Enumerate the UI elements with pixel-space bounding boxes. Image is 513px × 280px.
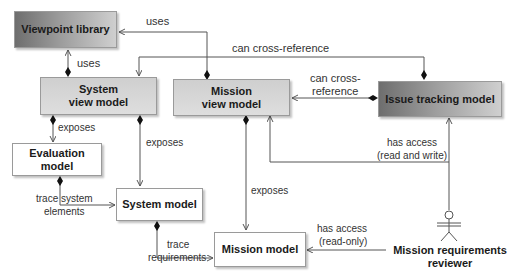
actor-label-line2: reviewer	[388, 257, 512, 270]
edge-label-can-cross-1: can cross-	[310, 72, 361, 84]
edge-label-can-cross-2: reference	[312, 85, 358, 97]
node-system-view-model: System view model	[40, 77, 157, 115]
edge-label-trace-system-1: trace system	[36, 193, 93, 205]
node-label: Evaluation model	[13, 147, 101, 173]
node-label-line1: System	[79, 83, 118, 96]
node-label-line2: view model	[202, 98, 261, 111]
diamond-icon	[368, 95, 378, 101]
edge-label-trace-system-2: elements	[44, 206, 85, 218]
edge-issue-crossref-system-view	[139, 57, 424, 76]
node-label: Issue tracking model	[385, 93, 494, 106]
edge-label-uses-left: uses	[77, 57, 100, 69]
node-mission-model: Mission model	[214, 232, 306, 267]
edge-label-access-rw-1: has access	[387, 137, 437, 149]
edge-label-exposes-sys: exposes	[146, 137, 183, 149]
node-label: System model	[122, 198, 197, 211]
node-issue-tracking-model: Issue tracking model	[378, 81, 502, 117]
actor-label: Mission requirements reviewer	[388, 244, 512, 270]
edge-label-exposes-eval: exposes	[58, 122, 95, 134]
node-system-model: System model	[116, 188, 203, 221]
edge-label-uses-top: uses	[146, 15, 169, 27]
actor-label-line1: Mission requirements	[388, 244, 512, 257]
diamond-icon	[57, 176, 63, 186]
node-label-line2: view model	[69, 96, 128, 109]
diamond-icon	[243, 115, 249, 125]
node-label: Mission model	[222, 243, 298, 256]
actor-icon	[437, 211, 461, 241]
node-evaluation-model: Evaluation model	[12, 143, 102, 176]
edge-label-trace-req-2: requirements	[148, 252, 206, 264]
edge-label-exposes-mission: exposes	[251, 185, 288, 197]
node-label: Viewpoint library	[21, 23, 109, 36]
diamond-icon	[154, 221, 160, 231]
node-label-line1: Mission	[211, 85, 252, 98]
edge-label-can-cross-reference: can cross-reference	[232, 42, 329, 54]
diamond-icon	[65, 67, 71, 77]
diamond-icon	[137, 115, 143, 125]
edge-mission-view-uses-viewpoint	[119, 32, 207, 72]
diamond-icon	[421, 70, 427, 80]
edge-label-trace-req-1: trace	[167, 239, 189, 251]
diamond-icon	[50, 115, 56, 125]
edge-label-access-ro-2: (read-only)	[319, 236, 367, 248]
node-mission-view-model: Mission view model	[173, 79, 290, 116]
edge-label-access-rw-2: (read and write)	[377, 150, 447, 162]
node-viewpoint-library: Viewpoint library	[14, 11, 117, 48]
edge-label-access-ro-1: has access	[317, 223, 367, 235]
